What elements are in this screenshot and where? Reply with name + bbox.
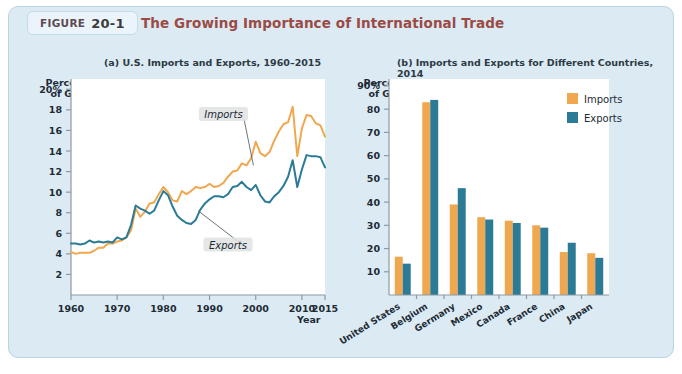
panel-a-y-tick-label: 18 xyxy=(49,104,63,115)
panel-b-y-tick-label: 20 xyxy=(367,243,381,254)
bar-imports-mexico xyxy=(477,217,485,295)
panel-a-y-tick-label: 8 xyxy=(55,207,62,218)
panel-b-plot-area xyxy=(389,79,609,295)
panel-a-x-tick-label: 1980 xyxy=(150,303,177,314)
panel-b-y-tick-label: 30 xyxy=(367,220,381,231)
bar-imports-france xyxy=(532,225,540,295)
bar-exports-belgium xyxy=(430,100,438,295)
figure-header: FIGURE 20-1 The Growing Importance of In… xyxy=(9,7,673,39)
figure-title: The Growing Importance of International … xyxy=(141,15,504,31)
panel-a-y-tick-label: 2 xyxy=(55,269,62,280)
bar-exports-china xyxy=(568,243,576,295)
category-label-china: China xyxy=(537,301,567,325)
panel-a-y-tick-label: 16 xyxy=(49,125,63,136)
legend-label-exports: Exports xyxy=(584,113,622,124)
annotation-label-exports: Exports xyxy=(209,240,247,251)
figure-container: FIGURE 20-1 The Growing Importance of In… xyxy=(8,6,674,358)
legend-swatch-exports xyxy=(567,112,578,123)
bar-imports-united-states xyxy=(395,257,403,295)
panel-b-y-tick-label: 60 xyxy=(367,150,381,161)
panel-b-y-tick-label: 80 xyxy=(367,104,381,115)
bar-exports-canada xyxy=(513,223,521,295)
bar-exports-united-states xyxy=(403,264,411,295)
panel-a-y-tick-label: 12 xyxy=(49,166,62,177)
panel-a-x-tick-label: 2015 xyxy=(312,303,338,314)
bar-exports-france xyxy=(540,228,548,295)
panel-b-y-tick-label: 90% xyxy=(357,80,380,91)
panel-a-y-tick-label: 14 xyxy=(49,146,63,157)
panel-a-y-tick-label: 20% xyxy=(39,84,62,95)
line-chart-us-trade: 2468101214161820%19601970198019902000201… xyxy=(23,67,333,312)
panel-a-y-tick-label: 6 xyxy=(55,228,62,239)
bar-imports-canada xyxy=(505,221,513,295)
bar-exports-mexico xyxy=(485,220,493,295)
category-label-france: France xyxy=(505,301,539,327)
panel-b-y-tick-label: 40 xyxy=(367,197,381,208)
bar-exports-japan xyxy=(595,258,603,295)
panel-a-y-tick-label: 10 xyxy=(49,187,63,198)
panel-a-x-tick-label: 1990 xyxy=(196,303,223,314)
panel-a-x-tick-label: 1960 xyxy=(58,303,85,314)
panel-a-x-axis-label: Year xyxy=(297,314,321,325)
panel-a-y-tick-label: 4 xyxy=(55,248,62,259)
bar-imports-japan xyxy=(587,253,595,295)
panel-b-y-tick-label: 50 xyxy=(367,173,381,184)
bar-imports-china xyxy=(560,252,568,295)
bar-imports-germany xyxy=(450,204,458,295)
category-label-japan: Japan xyxy=(564,301,594,325)
bar-chart-country-trade: 102030405060708090%United StatesBelgiumG… xyxy=(341,67,671,347)
legend-swatch-imports xyxy=(567,93,578,104)
annotation-label-imports: Imports xyxy=(204,109,242,120)
panel-b-y-tick-label: 70 xyxy=(367,127,381,138)
panel-b-y-tick-label: 10 xyxy=(367,266,381,277)
panel-a-x-tick-label: 2000 xyxy=(243,303,270,314)
bar-exports-germany xyxy=(458,188,466,295)
figure-number: 20-1 xyxy=(91,16,124,31)
panel-a-x-tick-label: 1970 xyxy=(104,303,131,314)
legend-label-imports: Imports xyxy=(584,94,622,105)
bar-imports-belgium xyxy=(422,102,430,295)
figure-tag-label: FIGURE xyxy=(40,17,85,29)
figure-number-tab: FIGURE 20-1 xyxy=(27,11,138,35)
